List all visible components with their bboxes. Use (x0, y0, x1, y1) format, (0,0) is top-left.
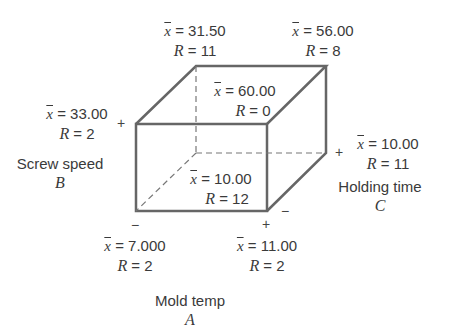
factor-c-label: Holding time C (325, 177, 435, 215)
corner-back-bottom-right: x = 10.00 R = 11 (346, 134, 430, 173)
factor-c-minus-sign: − (281, 204, 289, 218)
factor-a-plus-sign: + (262, 217, 270, 231)
corner-front-top-left: x = 33.00 R = 2 (30, 104, 124, 143)
factor-b-plus-sign: + (117, 116, 125, 130)
corner-front-bottom-right: x = 11.00 R = 2 (222, 236, 312, 275)
corner-front-top-right: x = 60.00 R = 0 (200, 81, 290, 120)
corner-back-top-left: x = 31.50 R = 11 (150, 21, 240, 60)
factor-c-plus-sign: + (335, 145, 343, 159)
corner-back-top-right: x = 56.00 R = 8 (278, 21, 368, 60)
factor-a-label: Mold temp A (140, 291, 240, 329)
factor-a-minus-sign: − (131, 218, 139, 232)
corner-front-bottom-left: x = 7.000 R = 2 (90, 236, 180, 275)
factor-b-label: Screw speed B (10, 154, 110, 192)
corner-back-bottom-left: x = 10.00 R = 12 (176, 169, 266, 208)
